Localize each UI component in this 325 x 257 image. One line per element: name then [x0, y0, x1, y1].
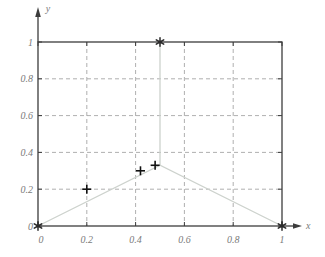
- x-tick-label: 0.4: [129, 234, 142, 245]
- star-center: [281, 225, 284, 228]
- y-tick-labels: 00.20.40.60.81: [21, 37, 34, 232]
- x-axis-label: x: [305, 220, 311, 231]
- y-axis-arrowhead-icon: [35, 7, 41, 17]
- star-center: [37, 225, 40, 228]
- y-tick-label: 1: [28, 37, 33, 48]
- x-tick-label: 0.8: [227, 234, 240, 245]
- y-tick-label: 0.8: [21, 73, 34, 84]
- x-axis-arrowhead-icon: [293, 223, 302, 229]
- x-tick-label: 0: [39, 234, 44, 245]
- y-tick-label: 0: [28, 221, 33, 232]
- x-tick-label: 0.6: [178, 234, 191, 245]
- axis-arrows: [35, 7, 302, 229]
- plus-marker-icon: [151, 161, 160, 170]
- y-tick-label: 0.2: [21, 184, 34, 195]
- y-axis-label: y: [45, 3, 51, 14]
- tent-line: [38, 165, 282, 226]
- x-tick-label: 0.2: [81, 234, 94, 245]
- star-center: [159, 41, 162, 44]
- y-tick-label: 0.4: [21, 147, 34, 158]
- chart-canvas: 00.20.40.60.81 00.20.40.60.81 x y: [0, 0, 325, 257]
- plus-marker-icon: [82, 185, 91, 194]
- tent-spike-plot-figure: 00.20.40.60.81 00.20.40.60.81 x y: [0, 0, 325, 257]
- series-lines: [38, 42, 282, 226]
- x-tick-label: 1: [280, 234, 285, 245]
- y-tick-label: 0.6: [21, 110, 34, 121]
- x-tick-labels: 00.20.40.60.81: [39, 234, 285, 245]
